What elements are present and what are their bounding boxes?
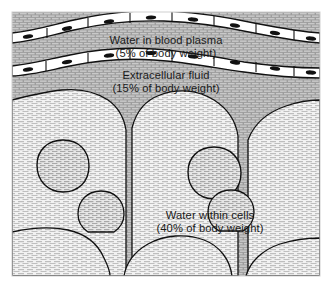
extracellular-label-line2: (15% of body weight) <box>112 82 219 94</box>
cell-nucleus-left <box>37 140 89 192</box>
plasma-label-line1: Water in blood plasma <box>110 34 224 46</box>
intracellular-label-line1: Water within cells <box>166 209 255 221</box>
plasma-label-line2: (5% of body weight) <box>116 47 217 59</box>
label-blood-plasma: Water in blood plasma (5% of body weight… <box>110 34 224 59</box>
label-water-within-cells: Water within cells (40% of body weight) <box>156 209 263 234</box>
body-water-compartments-figure: Water in blood plasma (5% of body weight… <box>0 0 332 290</box>
diagram-canvas: Water in blood plasma (5% of body weight… <box>0 0 332 290</box>
label-extracellular-fluid: Extracellular fluid (15% of body weight) <box>112 69 219 94</box>
intracellular-label-line2: (40% of body weight) <box>156 222 263 234</box>
cell-nucleus-partial-left <box>78 191 124 232</box>
extracellular-label-line1: Extracellular fluid <box>122 69 209 81</box>
artwork-group: Water in blood plasma (5% of body weight… <box>12 11 320 276</box>
